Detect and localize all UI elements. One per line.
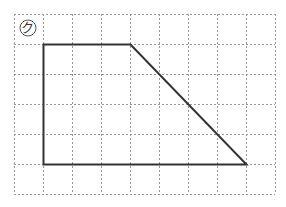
dotted-grid: [14, 14, 276, 195]
trapezoid-shape: [44, 45, 247, 165]
trapezoid-diagram: [0, 0, 286, 207]
figure-label: ク: [17, 18, 37, 38]
